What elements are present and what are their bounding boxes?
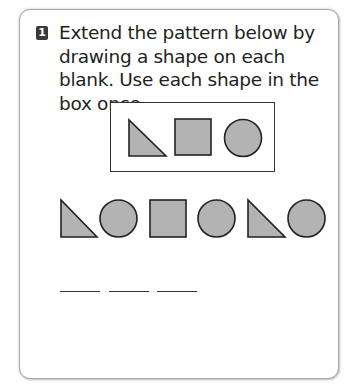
- pattern-circle-icon: [100, 200, 137, 237]
- answer-blank-2[interactable]: [109, 291, 149, 292]
- pattern-circle-icon: [198, 200, 235, 237]
- box-square-icon: [175, 119, 211, 155]
- pattern-triangle-icon: [248, 200, 285, 237]
- answer-blank-3[interactable]: [157, 291, 197, 292]
- pattern-triangle-icon: [61, 200, 97, 237]
- pattern-circle-icon: [288, 200, 325, 237]
- pattern-square-icon: [150, 200, 186, 237]
- box-circle-icon: [225, 120, 262, 157]
- shapes-layer: [0, 0, 352, 384]
- answer-blank-1[interactable]: [60, 291, 100, 292]
- box-triangle-icon: [129, 120, 166, 156]
